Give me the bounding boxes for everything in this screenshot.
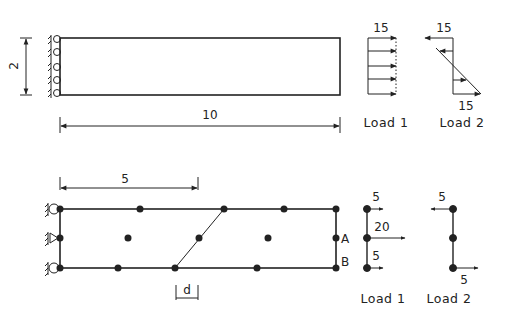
- node: [115, 265, 122, 272]
- bottom-load-1: 5 20 5 Load 1: [361, 190, 406, 306]
- node: [333, 206, 340, 213]
- distortion-label: d: [183, 283, 191, 297]
- node: [57, 265, 64, 272]
- node: [254, 265, 261, 272]
- width-label: 10: [202, 108, 217, 122]
- node-b: [333, 265, 340, 272]
- height-dimension: 2: [7, 38, 32, 95]
- bottom-load-2: 5 5 Load 2: [427, 190, 478, 306]
- node: [196, 235, 203, 242]
- beam-rectangle: [60, 38, 340, 95]
- node: [172, 265, 179, 272]
- half-length-label: 5: [121, 172, 129, 186]
- mesh-nodes: [57, 206, 340, 272]
- load-2-bottom-magnitude: 15: [458, 99, 473, 113]
- load-1-magnitude: 15: [373, 21, 388, 35]
- node: [137, 206, 144, 213]
- bottom-load-1-bottom: 5: [372, 249, 380, 263]
- distortion-dimension: d: [176, 283, 198, 300]
- node: [125, 235, 132, 242]
- bottom-load-2-top: 5: [438, 190, 446, 204]
- node-a-label: A: [341, 232, 350, 246]
- fem-beam-diagram: 2 10 15 Load 1 1: [0, 0, 507, 323]
- half-length-dimension: 5: [60, 172, 198, 190]
- top-beam-model: 2 10 15 Load 1 1: [7, 21, 484, 133]
- width-dimension: 10: [60, 108, 340, 133]
- bottom-load-2-bottom: 5: [460, 273, 468, 287]
- load-2-caption: Load 2: [440, 115, 485, 130]
- bottom-load-1-middle: 20: [374, 220, 389, 234]
- node: [281, 206, 288, 213]
- bottom-load-2-caption: Load 2: [427, 291, 472, 306]
- node: [221, 206, 228, 213]
- node: [57, 206, 64, 213]
- bottom-load-1-top: 5: [372, 190, 380, 204]
- node-a: [333, 235, 340, 242]
- bottom-mesh-model: 5: [45, 172, 478, 306]
- node-b-label: B: [341, 255, 349, 269]
- node: [57, 235, 64, 242]
- height-label: 2: [7, 62, 21, 70]
- top-load-2: 15 15 Load 2: [425, 21, 484, 130]
- node: [265, 235, 272, 242]
- load-2-top-magnitude: 15: [436, 21, 451, 35]
- top-load-1: 15 Load 1: [364, 21, 409, 130]
- bottom-load-1-caption: Load 1: [361, 291, 406, 306]
- load-1-caption: Load 1: [364, 115, 409, 130]
- left-support-icons: [48, 35, 61, 98]
